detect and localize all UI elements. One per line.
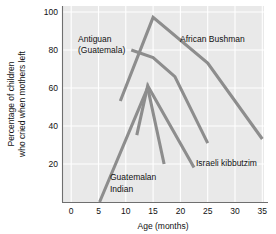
series-annotation-israeli-kibbutzim: Israeli kibbutzim [196,158,257,168]
x-tick-label: 10 [121,206,131,216]
chart-container: 100 80 60 40 20 0 5 10 15 20 25 30 35 Ag… [0,0,276,234]
y-axis-title-line1: Percentage of children [6,61,16,146]
x-axis-title: Age (months) [137,221,188,231]
series-annotation-antiguan-line2: (Guatemala) [78,45,125,55]
y-tick-label: 60 [49,83,59,93]
x-tick-label: 35 [258,206,268,216]
x-tick-label: 20 [176,206,186,216]
series-annotation-antiguan-line1: Antiguan [78,34,112,44]
series-annotation-african-bushman: African Bushman [180,34,245,44]
x-tick-label: 5 [96,206,101,216]
series-annotation-guatemalan-indian-line1: Guatemalan [110,172,157,182]
x-tick-label: 25 [203,206,213,216]
y-tick-label: 100 [44,7,58,17]
x-tick-labels: 0 5 10 15 20 25 30 35 [69,206,267,216]
y-tick-labels: 100 80 60 40 20 [44,7,58,169]
y-tick-label: 40 [49,121,59,131]
y-tick-label: 80 [49,45,59,55]
x-tick-label: 15 [148,206,158,216]
y-axis-title-line2: who cried when mothers left [17,50,27,157]
line-chart: 100 80 60 40 20 0 5 10 15 20 25 30 35 Ag… [0,0,276,234]
series-annotation-guatemalan-indian-line2: Indian [110,184,133,194]
x-tick-label: 30 [230,206,240,216]
y-tick-label: 20 [49,159,59,169]
x-tick-label: 0 [69,206,74,216]
